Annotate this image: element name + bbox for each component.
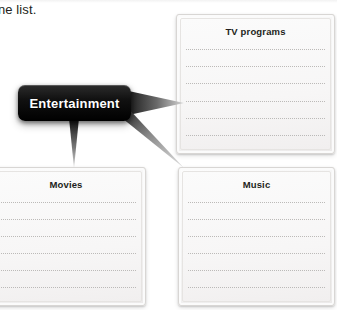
intro-text: ne list. [0, 2, 36, 17]
writing-line[interactable] [188, 287, 325, 288]
writing-line[interactable] [0, 253, 136, 254]
note-writing-lines[interactable] [0, 194, 141, 301]
writing-line[interactable] [188, 236, 325, 237]
note-box-music[interactable]: Music [178, 167, 335, 306]
writing-line[interactable] [186, 135, 325, 136]
writing-line[interactable] [0, 287, 136, 288]
note-writing-lines[interactable] [183, 194, 330, 301]
writing-line[interactable] [186, 101, 325, 102]
writing-line[interactable] [186, 118, 325, 119]
writing-line[interactable] [188, 253, 325, 254]
writing-line[interactable] [0, 270, 136, 271]
writing-line[interactable] [186, 49, 325, 50]
note-box-inner: TV programs [180, 18, 331, 150]
worksheet-page: ne list. [0, 0, 337, 310]
writing-line[interactable] [186, 83, 325, 84]
connector-to-movies [66, 118, 88, 170]
note-box-inner: Music [182, 171, 331, 302]
writing-line[interactable] [188, 202, 325, 203]
writing-line[interactable] [186, 66, 325, 67]
page-edge-shading [0, 0, 337, 3]
note-box-tv-programs[interactable]: TV programs [176, 14, 335, 154]
entertainment-callout[interactable]: Entertainment [18, 85, 131, 121]
note-box-movies[interactable]: Movies [0, 167, 146, 306]
writing-line[interactable] [0, 236, 136, 237]
writing-line[interactable] [0, 219, 136, 220]
note-box-title: Music [183, 172, 330, 194]
writing-line[interactable] [188, 219, 325, 220]
note-writing-lines[interactable] [181, 41, 330, 149]
note-box-title: TV programs [181, 19, 330, 41]
writing-line[interactable] [0, 202, 136, 203]
note-box-inner: Movies [0, 171, 142, 302]
entertainment-callout-label: Entertainment [29, 96, 119, 111]
writing-line[interactable] [188, 270, 325, 271]
note-box-title: Movies [0, 172, 141, 194]
